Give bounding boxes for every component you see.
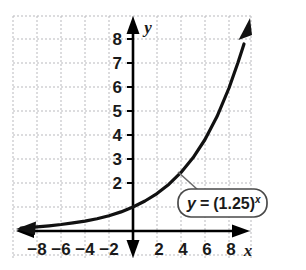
equation-callout: y=(1.25)x xyxy=(178,189,267,217)
x-tick-label: −2 xyxy=(99,240,118,259)
y-tick-labels: 8 7 6 5 4 3 2 xyxy=(113,30,123,193)
callout-eq-equals: = xyxy=(200,195,209,212)
y-tick-label: 2 xyxy=(113,174,122,193)
x-tick-label: −8 xyxy=(27,240,46,259)
y-tick-label: 6 xyxy=(113,78,122,97)
callout-eq-y: y xyxy=(186,195,197,212)
x-tick-label: 6 xyxy=(202,240,211,259)
x-tick-label: 4 xyxy=(178,240,188,259)
y-tick-label: 4 xyxy=(113,126,123,145)
graph-figure: 8 7 6 5 4 3 2 −8 −6 −4 −2 2 4 6 8 x y y=… xyxy=(0,0,306,270)
x-tick-label: −4 xyxy=(75,240,95,259)
callout-eq-exponent: x xyxy=(254,194,261,205)
y-axis-name: y xyxy=(142,18,152,37)
y-tick-label: 5 xyxy=(113,102,122,121)
x-tick-label: 2 xyxy=(154,240,163,259)
x-tick-label: −6 xyxy=(51,240,70,259)
y-tick-label: 7 xyxy=(113,54,122,73)
y-tick-label: 8 xyxy=(113,30,122,49)
callout-eq-base: (1.25) xyxy=(213,195,255,212)
x-tick-label: 8 xyxy=(226,240,235,259)
y-tick-label: 3 xyxy=(113,150,122,169)
x-axis-name: x xyxy=(243,241,253,260)
